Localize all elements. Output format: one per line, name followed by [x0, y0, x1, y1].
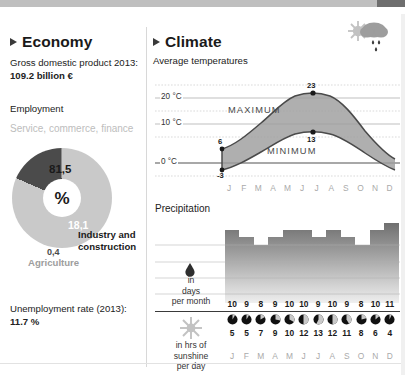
- employment-heading: Employment: [10, 103, 63, 114]
- month-label: M: [251, 183, 266, 193]
- sunshine-icons: [225, 314, 397, 325]
- precip-value: 9: [340, 299, 354, 309]
- top-bar: [0, 0, 405, 7]
- sunshine-value: 12: [325, 328, 339, 338]
- precip-value: 8: [354, 299, 368, 309]
- precip-value: 10: [282, 299, 296, 309]
- month-label: J: [309, 183, 324, 193]
- sunshine-pie-icon: [368, 314, 382, 325]
- bottom-rule: [0, 363, 405, 364]
- sunshine-pie-icon: [325, 314, 339, 325]
- y-tick-20c: 20 °C: [160, 92, 183, 101]
- gdp-label: Gross domestic product 2013:: [10, 57, 142, 70]
- economy-section: Economy Gross domestic product 2013: 109…: [10, 33, 142, 83]
- month-label: S: [339, 183, 354, 193]
- agriculture-label: Agriculture: [28, 257, 79, 268]
- month-label: M: [254, 351, 268, 361]
- unemployment-block: Unemployment rate (2013): 11.7 %: [10, 303, 140, 329]
- percent-symbol: %: [54, 190, 69, 207]
- sunshine-pie-icon: [311, 314, 325, 325]
- economy-heading-label: Economy: [22, 33, 92, 51]
- service-sector-label: Service, commerce, finance: [10, 122, 135, 135]
- sunshine-legend: in hrs of sunshine per day: [158, 340, 224, 372]
- month-label: J: [222, 183, 237, 193]
- sunshine-pie-icon: [354, 314, 368, 325]
- precipitation-baseline: [155, 311, 400, 312]
- month-label: J: [225, 351, 239, 361]
- precip-value: 10: [368, 299, 382, 309]
- precipitation-legend-line3: per month: [160, 296, 222, 307]
- month-label: F: [237, 183, 252, 193]
- sunshine-value: 9: [268, 328, 282, 338]
- month-label: D: [382, 183, 397, 193]
- precipitation-heading: Precipitation: [155, 203, 210, 214]
- sunshine-legend-line2: sunshine: [158, 351, 224, 362]
- sun-icon: [178, 315, 204, 341]
- gdp-block: Gross domestic product 2013: 109.2 billi…: [10, 57, 142, 83]
- sunshine-value: 13: [311, 328, 325, 338]
- top-bar-dark-segment: [377, 0, 405, 7]
- month-label: A: [325, 351, 339, 361]
- precip-value: 10: [297, 299, 311, 309]
- precip-value: 11: [383, 299, 397, 309]
- sunshine-value: 5: [225, 328, 239, 338]
- panel-divider: [146, 27, 147, 367]
- precip-value: 10: [225, 299, 239, 309]
- month-label: J: [311, 351, 325, 361]
- sunshine-values: 5 5 7 9 10 12 13 12 11 8 6 4: [225, 328, 397, 338]
- y-tick-10c: 10 °C: [160, 118, 183, 127]
- month-label: O: [353, 183, 368, 193]
- sunshine-pie-icon: [383, 314, 397, 325]
- sunshine-value: 7: [254, 328, 268, 338]
- sunshine-pie-icon: [297, 314, 311, 325]
- sunshine-value: 6: [368, 328, 382, 338]
- sunshine-legend-line1: in hrs of: [158, 340, 224, 351]
- economy-heading: Economy: [10, 33, 142, 51]
- month-label: J: [297, 351, 311, 361]
- right-edge-strip: [401, 14, 405, 375]
- month-label: A: [268, 351, 282, 361]
- precipitation-legend: in days per month: [160, 275, 222, 307]
- month-label: D: [383, 351, 397, 361]
- precipitation-values: 10 9 8 9 10 10 9 10 9 8 10 11: [225, 299, 397, 309]
- triangle-bullet-icon: [10, 38, 17, 46]
- peak-max-value: 23: [307, 81, 315, 90]
- start-max-value: 6: [218, 137, 222, 146]
- sunshine-pie-icon: [225, 314, 239, 325]
- precip-value: 8: [254, 299, 268, 309]
- sunshine-pie-icon: [268, 314, 282, 325]
- gdp-value: 109.2 billion €: [10, 70, 142, 83]
- donut-center: %: [43, 179, 81, 217]
- month-label: O: [354, 351, 368, 361]
- month-label: F: [239, 351, 253, 361]
- triangle-bullet-icon: [153, 38, 160, 46]
- industry-label: Industry and construction: [78, 229, 148, 252]
- page-body: Economy Gross domestic product 2013: 109…: [0, 7, 405, 368]
- precip-value: 9: [268, 299, 282, 309]
- precipitation-legend-line1: in: [160, 275, 222, 286]
- sunshine-value: 5: [239, 328, 253, 338]
- temperature-subheading: Average temperatures: [153, 55, 393, 66]
- sunshine-pie-icon: [340, 314, 354, 325]
- agriculture-value: 0,4: [47, 247, 60, 257]
- maximum-label: MAXIMUM: [228, 105, 281, 115]
- month-label: S: [340, 351, 354, 361]
- temperature-chart: 20 °C 10 °C 0 °C MAXIMUM MINIMUM 23 13 6…: [155, 79, 400, 191]
- sun-cloud-rain-icon: [348, 17, 396, 55]
- unemployment-label: Unemployment rate (2013):: [10, 303, 140, 316]
- start-min-value: -3: [217, 171, 224, 180]
- sunshine-value: 10: [282, 328, 296, 338]
- month-label: A: [266, 183, 281, 193]
- sunshine-value: 12: [297, 328, 311, 338]
- precip-value: 9: [239, 299, 253, 309]
- sunshine-value: 11: [340, 328, 354, 338]
- sunshine-pie-icon: [254, 314, 268, 325]
- y-tick-0c: 0 °C: [160, 157, 178, 166]
- precip-value: 9: [311, 299, 325, 309]
- month-label: M: [280, 183, 295, 193]
- month-label: M: [282, 351, 296, 361]
- sunshine-value: 8: [354, 328, 368, 338]
- peak-min-value: 13: [307, 135, 315, 144]
- sunshine-pie-icon: [239, 314, 253, 325]
